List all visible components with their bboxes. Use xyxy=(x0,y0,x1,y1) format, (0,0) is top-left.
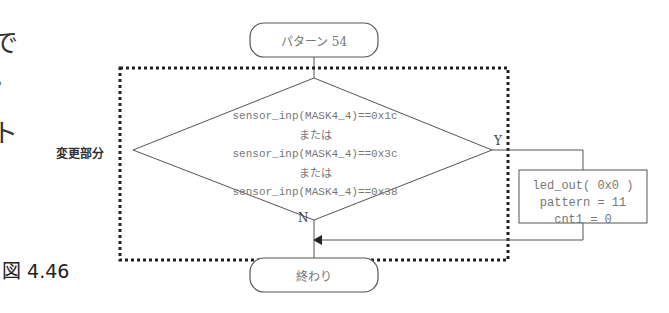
process-line: led_out( 0x0 ) xyxy=(519,178,647,195)
decision-line: または xyxy=(195,164,435,183)
decision-text: sensor_inp(MASK4_4)==0x1c または sensor_inp… xyxy=(195,107,435,202)
yes-label: Y xyxy=(494,134,502,148)
connector-yes xyxy=(492,150,583,170)
process-line: pattern = 11 xyxy=(519,195,647,212)
end-terminal-label: 終わり xyxy=(250,267,378,284)
decision-line: または xyxy=(195,126,435,145)
no-label: N xyxy=(298,211,309,225)
decision-line: sensor_inp(MASK4_4)==0x38 xyxy=(195,183,435,202)
start-terminal-label: パターン 54 xyxy=(250,32,378,49)
process-line: cnt1 = 0 xyxy=(519,212,647,229)
decision-line: sensor_inp(MASK4_4)==0x1c xyxy=(195,107,435,126)
decision-line: sensor_inp(MASK4_4)==0x3c xyxy=(195,145,435,164)
process-text: led_out( 0x0 ) pattern = 11 cnt1 = 0 xyxy=(519,178,647,229)
